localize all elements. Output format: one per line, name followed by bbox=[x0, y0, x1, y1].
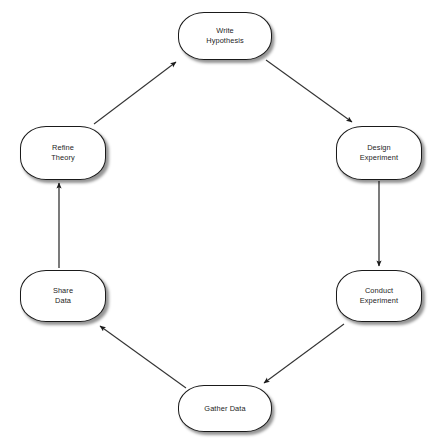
node-label: Design Experiment bbox=[360, 143, 398, 163]
node-label: Gather Data bbox=[204, 404, 245, 414]
node-label: Refine Theory bbox=[51, 143, 75, 163]
diagram-canvas: Write Hypothesis Design Experiment Condu… bbox=[0, 0, 438, 447]
node-refine-theory[interactable]: Refine Theory bbox=[20, 126, 106, 180]
edge-refine-theory-to-write-hypothesis bbox=[94, 62, 176, 124]
node-write-hypothesis[interactable]: Write Hypothesis bbox=[178, 12, 272, 60]
node-design-experiment[interactable]: Design Experiment bbox=[336, 126, 422, 180]
edge-layer bbox=[0, 0, 438, 447]
node-conduct-experiment[interactable]: Conduct Experiment bbox=[336, 270, 422, 322]
node-label: Conduct Experiment bbox=[360, 286, 398, 306]
node-gather-data[interactable]: Gather Data bbox=[178, 385, 272, 432]
edge-write-hypothesis-to-design-experiment bbox=[266, 60, 352, 122]
edge-conduct-experiment-to-gather-data bbox=[264, 324, 344, 383]
edge-gather-data-to-share-data bbox=[100, 326, 186, 388]
node-share-data[interactable]: Share Data bbox=[20, 270, 106, 322]
node-label: Write Hypothesis bbox=[206, 26, 244, 46]
node-label: Share Data bbox=[53, 286, 73, 306]
